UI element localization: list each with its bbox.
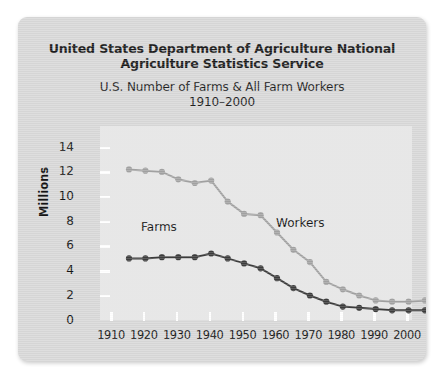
data-point-marker — [159, 254, 165, 260]
series-label-workers: Workers — [276, 216, 325, 230]
data-point-marker — [225, 199, 231, 205]
data-point-marker — [142, 255, 148, 261]
data-point-marker — [373, 306, 379, 312]
data-point-marker — [126, 166, 132, 172]
data-point-marker — [241, 211, 247, 217]
data-point-marker — [241, 260, 247, 266]
data-point-marker — [175, 176, 181, 182]
chart-card: United States Department of Agriculture … — [18, 17, 426, 361]
series-workers-line — [126, 166, 426, 305]
data-point-marker — [340, 286, 346, 292]
data-point-marker — [406, 307, 412, 313]
data-point-marker — [389, 307, 395, 313]
data-point-marker — [307, 259, 313, 265]
data-point-marker — [422, 307, 426, 313]
data-point-marker — [340, 304, 346, 310]
data-point-marker — [290, 247, 296, 253]
series-plot — [18, 17, 426, 361]
data-point-marker — [142, 168, 148, 174]
series-label-farms: Farms — [141, 220, 177, 234]
data-point-marker — [258, 212, 264, 218]
series-farms-line — [126, 250, 426, 313]
data-point-marker — [274, 229, 280, 235]
data-point-marker — [307, 292, 313, 298]
data-point-marker — [373, 297, 379, 303]
data-point-marker — [323, 299, 329, 305]
data-point-marker — [159, 169, 165, 175]
data-point-marker — [192, 180, 198, 186]
data-point-marker — [323, 279, 329, 285]
data-point-marker — [192, 254, 198, 260]
data-point-marker — [225, 255, 231, 261]
data-point-marker — [356, 292, 362, 298]
data-point-marker — [422, 297, 426, 303]
data-point-marker — [175, 254, 181, 260]
data-point-marker — [208, 178, 214, 184]
data-point-marker — [208, 250, 214, 256]
data-point-marker — [389, 299, 395, 305]
data-point-marker — [258, 265, 264, 271]
data-point-marker — [126, 255, 132, 261]
data-point-marker — [356, 305, 362, 311]
data-point-marker — [406, 299, 412, 305]
data-point-marker — [274, 275, 280, 281]
data-point-marker — [290, 285, 296, 291]
